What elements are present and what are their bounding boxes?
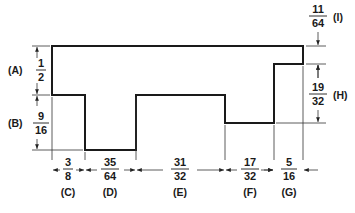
dimension-a-label: (A)	[8, 64, 23, 76]
dimension-d-label: (D)	[103, 186, 118, 198]
dimension-g-label: (G)	[281, 186, 296, 198]
part-outline	[52, 46, 303, 150]
dimension-g-numerator: 5	[286, 156, 292, 168]
dimension-f-label: (F)	[243, 186, 256, 198]
dimension-a-numerator: 1	[38, 57, 44, 69]
dimension-a: (A) 1 2	[8, 57, 46, 83]
dimension-a-denominator: 2	[38, 71, 44, 83]
dimension-b: (B) 9 16	[8, 110, 49, 136]
dimension-e-numerator: 31	[174, 156, 186, 168]
dimension-e: 31 32 (E)	[171, 156, 189, 198]
bottom-extension-lines	[52, 66, 303, 160]
dimension-g: 5 16 (G)	[281, 156, 297, 198]
dimension-e-label: (E)	[173, 186, 187, 198]
dimension-c-label: (C)	[61, 186, 76, 198]
dimension-f: 17 32 (F)	[241, 156, 259, 198]
dimension-h-label: (H)	[333, 89, 348, 101]
dimension-b-denominator: 16	[35, 124, 47, 136]
dimension-i: 11 64 (I)	[309, 3, 343, 29]
dimension-d-numerator: 35	[104, 156, 116, 168]
dimension-f-numerator: 17	[244, 156, 256, 168]
dimension-b-numerator: 9	[38, 110, 44, 122]
dimension-e-denominator: 32	[174, 170, 186, 182]
dimension-c: 3 8 (C)	[61, 156, 76, 198]
dimension-h-numerator: 19	[312, 81, 324, 93]
dimension-d-denominator: 64	[104, 170, 117, 182]
dimension-c-denominator: 8	[65, 170, 71, 182]
dimension-h: 19 32 (H)	[309, 81, 348, 107]
dimension-h-denominator: 32	[312, 95, 324, 107]
dimension-g-denominator: 16	[283, 170, 295, 182]
dimension-i-denominator: 64	[312, 17, 325, 29]
dimension-f-denominator: 32	[244, 170, 256, 182]
dimensioned-part-drawing: (A) 1 2 (B) 9 16 3 8 (C) 35 64 (D) 31 32…	[0, 0, 355, 213]
dimension-c-numerator: 3	[65, 156, 71, 168]
dimension-i-label: (I)	[333, 11, 343, 23]
dimension-i-numerator: 11	[312, 3, 324, 15]
dimension-d: 35 64 (D)	[101, 156, 119, 198]
dimension-b-label: (B)	[8, 117, 23, 129]
